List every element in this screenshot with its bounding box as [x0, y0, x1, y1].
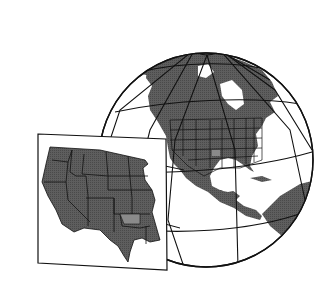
- inset-map: [38, 134, 167, 270]
- illustration: Globe centered on North America with an …: [0, 0, 333, 287]
